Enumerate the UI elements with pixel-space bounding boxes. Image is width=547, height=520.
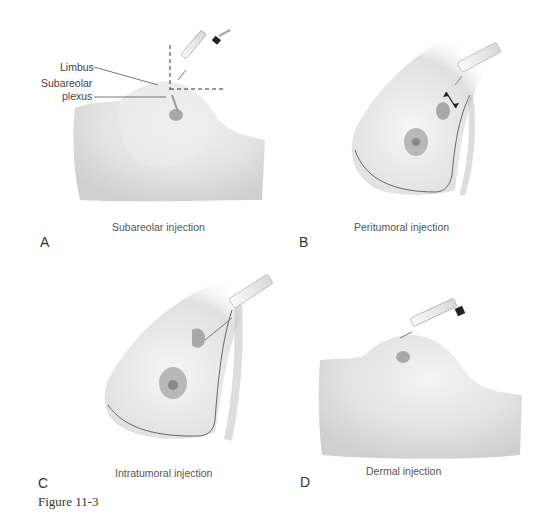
syringe-a-icon xyxy=(178,30,230,80)
panel-letter-d: D xyxy=(300,474,310,490)
tumor-d xyxy=(396,351,410,363)
caption-b: Peritumoral injection xyxy=(354,221,449,233)
tumor-a xyxy=(169,109,183,121)
panel-letter-b: B xyxy=(299,234,308,250)
panel-letter-a: A xyxy=(40,234,49,250)
panel-letter-c: C xyxy=(38,475,48,491)
tumor-b xyxy=(436,102,450,120)
panel-c-illustration xyxy=(105,274,275,440)
annotation-subareolar: Subareolar xyxy=(41,77,92,89)
panel-b-illustration xyxy=(352,35,501,195)
nipple-c xyxy=(168,380,178,390)
annotation-limbus: Limbus xyxy=(60,61,94,73)
caption-a: Subareolar injection xyxy=(112,221,205,233)
annotation-plexus: plexus xyxy=(62,90,92,102)
nipple-b xyxy=(412,138,420,146)
syringe-d-icon xyxy=(400,298,465,338)
caption-c: Intratumoral injection xyxy=(115,467,212,479)
figure-number: Figure 11-3 xyxy=(38,494,99,510)
panel-d-illustration xyxy=(319,298,522,459)
caption-d: Dermal injection xyxy=(366,465,441,477)
panel-a-illustration xyxy=(73,30,265,201)
